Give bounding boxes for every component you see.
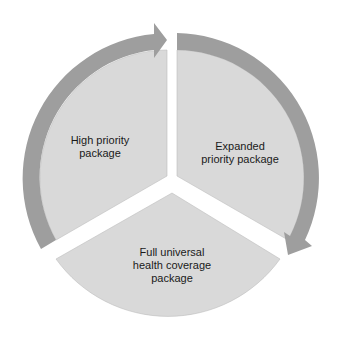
label-expanded-priority: Expanded priority package [190,140,290,166]
label-high-priority: High priority package [60,134,140,160]
diagram-graphic [0,0,337,350]
label-full-universal: Full universal health coverage package [122,246,222,285]
cycle-diagram: High priority package Expanded priority … [0,0,337,350]
